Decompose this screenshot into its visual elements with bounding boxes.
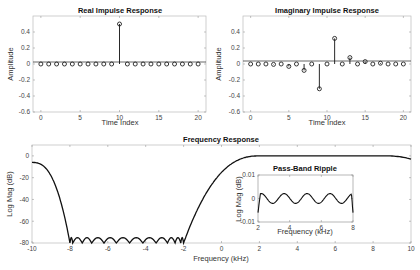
frequency-response-plot: -80-60-40-200 -10-8-6-4-20246810 Frequen… bbox=[5, 135, 415, 263]
y-tick-label: -0.2 bbox=[229, 76, 241, 83]
x-tick-label: 5 bbox=[287, 114, 291, 121]
y-tick-label: -0.4 bbox=[19, 92, 31, 99]
x-tick-label: 5 bbox=[78, 114, 82, 121]
x-tick-label: -4 bbox=[143, 245, 149, 252]
ripple-y-label: Log Mag (dB) bbox=[234, 176, 243, 222]
x-tick-label: 15 bbox=[362, 114, 370, 121]
x-tick-label: 20 bbox=[400, 114, 408, 121]
y-tick-label: -0.4 bbox=[229, 92, 241, 99]
freq-x-label: Frequency (kHz) bbox=[193, 254, 249, 263]
x-tick-label: 2 bbox=[258, 245, 262, 252]
x-tick-label: 0 bbox=[249, 114, 253, 121]
ripple-title: Pass-Band Ripple bbox=[273, 164, 337, 173]
y-tick-label: 0.4 bbox=[231, 28, 240, 35]
real-x-label: Time Index bbox=[102, 118, 139, 127]
imag-y-label: Amplitude bbox=[214, 47, 223, 80]
y-tick-label: -60 bbox=[20, 218, 30, 225]
y-tick-label: 0.01 bbox=[242, 171, 255, 178]
y-tick-label: 0 bbox=[251, 195, 255, 202]
real-impulse-title: Real Impulse Response bbox=[78, 6, 162, 15]
x-tick-label: 20 bbox=[195, 114, 203, 121]
y-tick-label: 0.2 bbox=[231, 44, 240, 51]
imag-impulse-title: Imaginary Impulse Response bbox=[275, 6, 379, 15]
x-tick-label: 0 bbox=[39, 114, 43, 121]
y-tick-label: 0 bbox=[236, 60, 240, 67]
x-tick-label: -2 bbox=[181, 245, 187, 252]
real-impulse-plot: -0.6-0.4-0.200.20.4 05101520 Real Impuls… bbox=[6, 6, 206, 127]
x-tick-label: -10 bbox=[27, 245, 37, 252]
x-tick-label: 10 bbox=[407, 245, 415, 252]
y-tick-label: 0 bbox=[25, 152, 29, 159]
y-tick-label: -0.6 bbox=[229, 108, 241, 115]
real-y-label: Amplitude bbox=[6, 47, 15, 80]
y-tick-label: 0 bbox=[26, 60, 30, 67]
imag-x-label: Time Index bbox=[309, 118, 346, 127]
x-tick-label: 8 bbox=[371, 245, 375, 252]
y-tick-label: 0.4 bbox=[21, 28, 30, 35]
imag-impulse-plot: -0.6-0.4-0.200.20.4 05101520 Imaginary I… bbox=[214, 6, 411, 127]
figure: -0.6-0.4-0.200.20.4 05101520 Real Impuls… bbox=[0, 0, 420, 270]
x-tick-label: 6 bbox=[333, 245, 337, 252]
freq-y-label: Log Mag (dB) bbox=[5, 171, 14, 217]
x-tick-label: 2 bbox=[256, 224, 260, 231]
x-tick-label: 4 bbox=[295, 245, 299, 252]
x-tick-label: 15 bbox=[155, 114, 163, 121]
y-tick-label: -20 bbox=[20, 174, 30, 181]
frequency-response-title: Frequency Response bbox=[183, 135, 259, 144]
y-tick-label: -0.6 bbox=[19, 108, 31, 115]
y-tick-label: -40 bbox=[20, 196, 30, 203]
y-tick-label: -0.2 bbox=[19, 76, 31, 83]
x-tick-label: -6 bbox=[105, 245, 111, 252]
x-tick-label: -8 bbox=[67, 245, 73, 252]
x-tick-label: 0 bbox=[220, 245, 224, 252]
ripple-x-label: Frequency (kHz) bbox=[277, 227, 333, 236]
y-tick-label: 0.2 bbox=[21, 44, 30, 51]
x-tick-label: 8 bbox=[351, 224, 355, 231]
